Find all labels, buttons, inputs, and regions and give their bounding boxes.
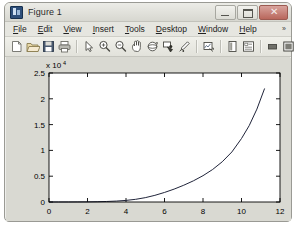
y-tick-label: 0.5: [34, 172, 46, 181]
x-axis-tick-labels: 0 2 4 6 8 10 12: [47, 207, 285, 216]
toolbar-separator: [220, 40, 222, 53]
y-axis-multiplier: x 10: [46, 61, 62, 70]
x-tick-label: 8: [201, 207, 206, 216]
toolbar-separator: [196, 40, 198, 53]
minimize-button[interactable]: [215, 5, 236, 20]
x-tick-label: 12: [276, 207, 285, 216]
y-tick-label: 1.5: [34, 121, 46, 130]
menu-item-label: nsert: [95, 24, 114, 34]
toolbar-separator: [76, 40, 78, 53]
menu-item-help[interactable]: Help: [239, 24, 256, 34]
y-tick-label: 2.5: [34, 69, 46, 78]
window-title: Figure 1: [28, 7, 62, 17]
pan-icon[interactable]: [129, 39, 144, 54]
menu-item-edit[interactable]: Edit: [38, 24, 53, 34]
menu-item-label: dit: [43, 24, 52, 34]
menu-item-desktop[interactable]: Desktop: [156, 24, 187, 34]
y-axis-multiplier-exponent: 4: [63, 60, 66, 66]
caption-button-group: ✕: [215, 5, 288, 20]
menu-bar: File Edit View Insert Tools Desktop Wind…: [5, 22, 291, 37]
menu-item-label: iew: [69, 24, 82, 34]
x-tick-label: 4: [124, 207, 129, 216]
y-tick-label: 1: [41, 146, 46, 155]
menu-item-view[interactable]: View: [63, 24, 81, 34]
plot-background: [49, 73, 280, 202]
title-bar: Figure 1 ✕: [5, 3, 291, 22]
x-tick-label: 6: [162, 207, 167, 216]
x-tick-label: 0: [47, 207, 52, 216]
figure-canvas[interactable]: x 10 4: [6, 58, 291, 221]
menu-overflow-icon[interactable]: »: [282, 25, 286, 32]
menu-item-label: esktop: [162, 24, 187, 34]
menu-item-label: elp: [245, 24, 256, 34]
edit-plot-icon[interactable]: [81, 39, 96, 54]
insert-legend-icon[interactable]: [241, 39, 256, 54]
insert-colorbar-icon[interactable]: [225, 39, 240, 54]
print-figure-icon[interactable]: [57, 39, 72, 54]
show-plot-tools-icon[interactable]: [281, 39, 296, 54]
menu-item-tools[interactable]: Tools: [125, 24, 145, 34]
menu-item-file[interactable]: File: [13, 24, 27, 34]
brush-data-icon[interactable]: [177, 39, 192, 54]
link-plot-icon[interactable]: [201, 39, 216, 54]
new-figure-icon[interactable]: [9, 39, 24, 54]
maximize-button[interactable]: [237, 5, 258, 20]
x-tick-label: 10: [237, 207, 246, 216]
open-file-icon[interactable]: [25, 39, 40, 54]
matlab-figure-icon: [10, 6, 23, 19]
menu-item-label: indow: [206, 24, 228, 34]
y-axis-tick-labels: 2.5 2 1.5 1 0.5 0: [34, 69, 46, 207]
y-tick-label: 2: [41, 95, 46, 104]
figure-window: Figure 1 ✕ File Edit View Insert Tools D…: [4, 2, 292, 222]
menu-item-label: ile: [18, 24, 27, 34]
close-icon: ✕: [260, 5, 287, 19]
exponential-line-chart[interactable]: x 10 4: [6, 58, 291, 221]
x-tick-label: 2: [85, 207, 90, 216]
desktop-backdrop: Figure 1 ✕ File Edit View Insert Tools D…: [0, 0, 296, 234]
y-tick-label: 0: [41, 198, 46, 207]
plot-area[interactable]: x 10 4: [6, 58, 291, 221]
zoom-out-icon[interactable]: [113, 39, 128, 54]
rotate-3d-icon[interactable]: [145, 39, 160, 54]
menu-item-window[interactable]: Window: [198, 24, 228, 34]
menu-mnemonic: W: [198, 24, 206, 34]
hide-plot-tools-icon[interactable]: [265, 39, 280, 54]
figure-toolbar: [5, 37, 291, 57]
data-cursor-icon[interactable]: [161, 39, 176, 54]
close-button[interactable]: ✕: [259, 5, 288, 20]
menu-item-insert[interactable]: Insert: [93, 24, 114, 34]
menu-item-label: ools: [129, 24, 145, 34]
toolbar-separator: [260, 40, 262, 53]
save-figure-icon[interactable]: [41, 39, 56, 54]
zoom-in-icon[interactable]: [97, 39, 112, 54]
